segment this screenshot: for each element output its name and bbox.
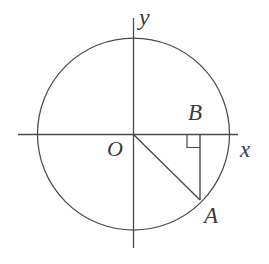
segment-oa bbox=[134, 135, 201, 201]
origin-label: O bbox=[107, 138, 123, 160]
figure-canvas bbox=[0, 0, 269, 264]
y-axis-label: y bbox=[139, 5, 150, 29]
point-b-label: B bbox=[188, 101, 202, 124]
point-a-label: A bbox=[204, 204, 218, 227]
geometry-figure: y x O B A bbox=[0, 0, 269, 264]
x-axis-label: x bbox=[240, 138, 250, 161]
right-angle-icon bbox=[187, 135, 200, 148]
